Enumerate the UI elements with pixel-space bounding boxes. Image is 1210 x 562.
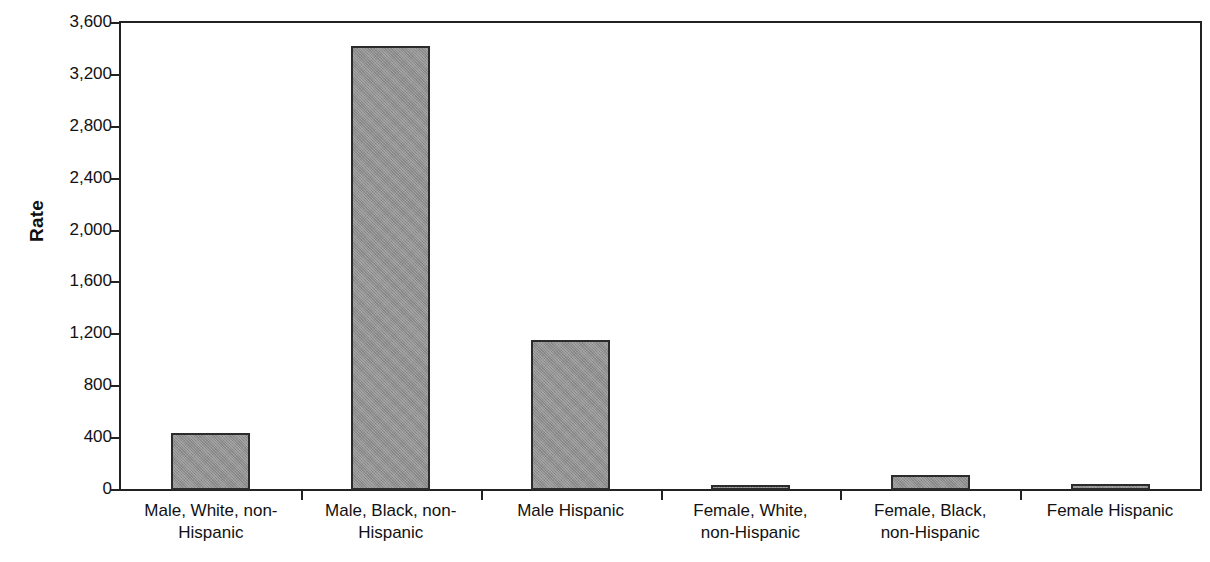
x-axis-category-label-line: Male, Black, non- xyxy=(301,500,481,522)
x-axis-tick-mark xyxy=(661,491,663,500)
y-axis-tick-label: 3,200 xyxy=(0,64,112,84)
bar-slot xyxy=(891,23,970,490)
y-axis-tick-label: 0 xyxy=(0,479,112,499)
x-axis-tick-mark xyxy=(1020,491,1022,500)
x-axis-category-label: Male, White, non-Hispanic xyxy=(121,500,301,544)
y-axis-tick-mark xyxy=(110,74,119,76)
bar-slot xyxy=(171,23,250,490)
x-axis-category-label-line: Female, Black, xyxy=(840,500,1020,522)
x-axis-category-label-line: Male, White, non- xyxy=(121,500,301,522)
bar xyxy=(531,340,610,490)
bar xyxy=(891,475,970,490)
bar xyxy=(711,485,790,490)
x-axis-category-label: Female Hispanic xyxy=(1020,500,1200,522)
y-axis-tick-label: 1,600 xyxy=(0,271,112,291)
y-axis-tick-mark xyxy=(110,489,119,491)
x-axis-category-label-line: Hispanic xyxy=(121,522,301,544)
y-axis-tick-label: 2,400 xyxy=(0,168,112,188)
bar-slot xyxy=(531,23,610,490)
y-axis-tick-label: 3,600 xyxy=(0,12,112,32)
x-axis-category-label-line: Female, White, xyxy=(661,500,841,522)
bar-slot xyxy=(351,23,430,490)
x-axis-category-label: Male, Black, non-Hispanic xyxy=(301,500,481,544)
bar-series xyxy=(121,23,1200,490)
x-axis-category-label: Male Hispanic xyxy=(481,500,661,522)
y-axis-tick-label: 800 xyxy=(0,375,112,395)
x-axis-category-label-line: Female Hispanic xyxy=(1020,500,1200,522)
x-axis-category-label-line: Male Hispanic xyxy=(481,500,661,522)
bar-slot xyxy=(711,23,790,490)
x-axis-category-label: Female, Black,non-Hispanic xyxy=(840,500,1020,544)
y-axis-tick-label: 1,200 xyxy=(0,323,112,343)
bar-chart: Rate 04008001,2001,6002,0002,4002,8003,2… xyxy=(0,0,1210,562)
x-axis-tick-mark xyxy=(840,491,842,500)
x-axis-category-label-line: non-Hispanic xyxy=(840,522,1020,544)
x-axis-label-group: Male, White, non-HispanicMale, Black, no… xyxy=(121,500,1200,562)
y-axis-tick-mark xyxy=(110,22,119,24)
y-axis-tick-label: 400 xyxy=(0,427,112,447)
y-axis-tick-label: 2,000 xyxy=(0,220,112,240)
y-axis-tick-mark xyxy=(110,230,119,232)
x-axis-category-label-line: Hispanic xyxy=(301,522,481,544)
bar xyxy=(1071,484,1150,490)
y-axis-tick-mark xyxy=(110,333,119,335)
bar xyxy=(351,46,430,490)
y-axis-tick-label: 2,800 xyxy=(0,116,112,136)
y-axis-tick-mark xyxy=(110,437,119,439)
y-axis-tick-mark xyxy=(110,178,119,180)
y-axis-tick-mark xyxy=(110,126,119,128)
x-axis-category-label-line: non-Hispanic xyxy=(661,522,841,544)
x-axis-category-label: Female, White,non-Hispanic xyxy=(661,500,841,544)
x-axis-tick-mark xyxy=(301,491,303,500)
y-axis-tick-mark xyxy=(110,385,119,387)
x-axis-tick-mark xyxy=(481,491,483,500)
bar xyxy=(171,433,250,490)
y-axis-tick-mark xyxy=(110,281,119,283)
bar-slot xyxy=(1071,23,1150,490)
